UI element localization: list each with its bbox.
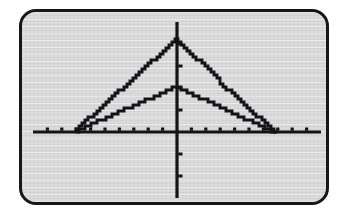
graph-plot-area[interactable] xyxy=(22,12,329,205)
calculator-screen-bezel xyxy=(19,9,329,205)
y-axis-tick-marks xyxy=(178,44,182,176)
axes-group xyxy=(33,22,321,198)
screenshot-page xyxy=(0,0,350,220)
